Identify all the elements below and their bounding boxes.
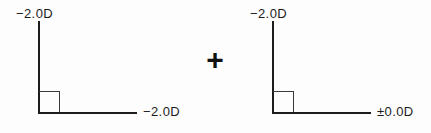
plus-operator-icon: +: [203, 47, 227, 73]
vertical-power-label: −2.0D: [16, 7, 53, 20]
horizontal-power-label: ±0.0D: [377, 105, 414, 118]
power-cross-right: −2.0D ±0.0D: [234, 0, 394, 133]
horizontal-power-label: −2.0D: [143, 105, 180, 118]
right-angle-marker: [273, 91, 294, 112]
vertical-power-label: −2.0D: [250, 7, 287, 20]
right-angle-marker: [39, 91, 60, 112]
power-cross-figure: −2.0D −2.0D + −2.0D ±0.0D: [0, 0, 431, 133]
power-cross-left: −2.0D −2.0D: [0, 0, 160, 133]
horizontal-meridian-line: [38, 112, 137, 114]
horizontal-meridian-line: [272, 112, 371, 114]
